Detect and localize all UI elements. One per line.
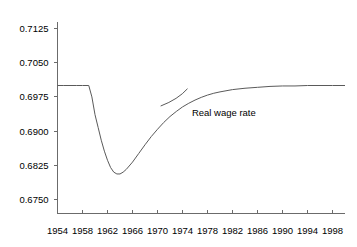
line-chart-plot: 0.67500.68250.69000.69750.70500.7125 195… [0, 0, 357, 247]
x-tick-label: 1978 [197, 225, 218, 236]
series-annotation-label: Real wage rate [192, 107, 256, 118]
x-tick-label: 1974 [172, 225, 193, 236]
y-tick-label: 0.6750 [19, 194, 48, 205]
x-tick-label: 1958 [72, 225, 93, 236]
y-tick-label: 0.6975 [19, 91, 48, 102]
annotation-group: Real wage rate [161, 89, 256, 118]
x-tick-label: 1998 [322, 225, 343, 236]
x-tick-label: 1966 [122, 225, 143, 236]
x-tick-label: 1994 [297, 225, 318, 236]
y-tick-label: 0.6900 [19, 126, 48, 137]
annotation-leader-line [161, 89, 188, 106]
y-tick-label: 0.7125 [19, 23, 48, 34]
y-tick-label: 0.7050 [19, 57, 48, 68]
y-axis: 0.67500.68250.69000.69750.70500.7125 [19, 22, 57, 214]
x-tick-label: 1986 [247, 225, 268, 236]
x-tick-label: 1962 [97, 225, 118, 236]
y-tick-group: 0.67500.68250.69000.69750.70500.7125 [19, 23, 57, 205]
x-tick-label: 1982 [222, 225, 243, 236]
x-tick-label: 1970 [147, 225, 168, 236]
data-series-group [58, 86, 346, 174]
chart-container: 0.67500.68250.69000.69750.70500.7125 195… [0, 0, 357, 247]
y-tick-label: 0.6825 [19, 160, 48, 171]
series-line-real-wage-rate [58, 86, 346, 174]
x-tick-label: 1954 [47, 225, 68, 236]
x-tick-label: 1990 [272, 225, 293, 236]
x-axis: 1954195819621966197019741978198219861990… [47, 210, 345, 236]
